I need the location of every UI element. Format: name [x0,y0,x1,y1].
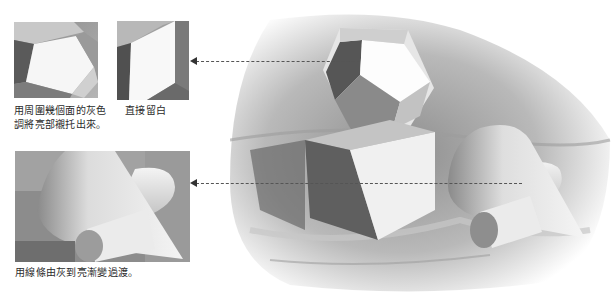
pointer-line-cone [196,183,522,184]
main-still-life-drawing [230,0,612,301]
detail-cone-cylinder-caption: 用線條由灰到亮漸變過渡。 [15,266,139,280]
detail-polyhedron-image [14,22,98,98]
detail-cone-cylinder-image [15,151,190,262]
arrowhead-left-icon [190,179,197,187]
detail-polyhedron-caption-line2: 調將亮部襯托出來。 [14,118,107,132]
detail-cube-edge-caption: 直接留白 [125,104,166,118]
detail-cube-edge-image [117,21,189,100]
arrowhead-left-icon [190,57,197,65]
pointer-line-polyhedron [196,61,360,62]
detail-polyhedron-caption-line1: 用周圍幾個面的灰色 [14,104,107,118]
